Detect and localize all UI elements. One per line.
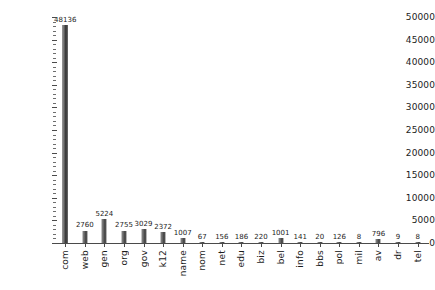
y-tick-minor: [53, 35, 56, 36]
y-tick-minor: [53, 71, 56, 72]
y-tick-minor: [53, 238, 56, 239]
y-tick-major: [52, 175, 57, 176]
bar-value-label: 186: [235, 233, 248, 241]
x-tick: [163, 243, 164, 247]
x-tick: [85, 243, 86, 247]
bar-value-label: 220: [254, 233, 267, 241]
bar[interactable]: [141, 229, 146, 243]
y-tick-minor: [53, 53, 56, 54]
x-category-label: gov: [139, 250, 149, 267]
y-tick-label: 20000: [406, 148, 435, 158]
bar-value-label: 2760: [76, 221, 94, 229]
y-tick-label: 15000: [406, 170, 435, 180]
bar-value-label: 156: [215, 233, 228, 241]
y-tick-minor: [53, 139, 56, 140]
x-category-label: edu: [236, 250, 246, 268]
y-tick-minor: [53, 103, 56, 104]
y-tick-minor: [53, 112, 56, 113]
y-tick-minor: [53, 193, 56, 194]
bar-value-label: 796: [372, 230, 385, 238]
x-category-label: pol: [334, 250, 344, 264]
y-tick-minor: [53, 94, 56, 95]
y-tick-label: 40000: [406, 57, 435, 67]
y-tick-minor: [53, 171, 56, 172]
bar-value-label: 67: [198, 233, 207, 241]
y-tick-label: 45000: [406, 35, 435, 45]
y-tick-minor: [53, 148, 56, 149]
x-category-label: org: [119, 250, 129, 265]
x-category-label: name: [178, 250, 188, 276]
y-tick-major: [52, 198, 57, 199]
x-tick: [398, 243, 399, 247]
y-tick-label: 5000: [412, 215, 435, 225]
y-tick-minor: [53, 162, 56, 163]
y-axis: [0, 0, 54, 290]
x-category-label: web: [80, 250, 90, 269]
bar-value-label: 48136: [54, 16, 76, 24]
x-category-label: tel: [413, 250, 423, 262]
y-tick-label: 0: [429, 238, 435, 248]
y-tick-minor: [53, 211, 56, 212]
x-category-label: gen: [99, 250, 109, 268]
y-tick-minor: [53, 98, 56, 99]
y-tick-major: [52, 17, 57, 18]
bar[interactable]: [161, 232, 166, 243]
y-tick-minor: [53, 26, 56, 27]
bar[interactable]: [102, 219, 107, 243]
y-tick-minor: [53, 49, 56, 50]
x-tick: [281, 243, 282, 247]
bar[interactable]: [121, 231, 126, 243]
bar-value-label: 20: [315, 233, 324, 241]
bar-value-label: 8: [357, 233, 361, 241]
x-tick: [65, 243, 66, 247]
x-category-label: net: [217, 250, 227, 265]
y-tick-minor: [53, 189, 56, 190]
x-category-label: bel: [276, 250, 286, 264]
y-tick-label: 35000: [406, 80, 435, 90]
y-tick-major: [52, 85, 57, 86]
y-tick-minor: [53, 216, 56, 217]
y-tick-minor: [53, 31, 56, 32]
y-tick-major: [52, 62, 57, 63]
bar-value-label: 141: [293, 233, 306, 241]
x-category-label: com: [60, 250, 70, 270]
y-tick-minor: [53, 44, 56, 45]
y-tick-minor: [53, 166, 56, 167]
y-tick-minor: [53, 80, 56, 81]
x-tick: [359, 243, 360, 247]
bar-value-label: 2372: [154, 223, 172, 231]
bar[interactable]: [62, 25, 68, 243]
y-tick-minor: [53, 22, 56, 23]
y-tick-minor: [53, 234, 56, 235]
y-tick-minor: [53, 67, 56, 68]
x-category-label: av: [373, 250, 383, 261]
x-tick: [241, 243, 242, 247]
y-tick-minor: [53, 116, 56, 117]
x-category-label: bbs: [315, 250, 325, 267]
y-tick-minor: [53, 89, 56, 90]
x-tick: [339, 243, 340, 247]
y-tick-minor: [53, 76, 56, 77]
x-tick: [320, 243, 321, 247]
bar-value-label: 1001: [272, 229, 290, 237]
x-category-label: mil: [354, 250, 364, 264]
y-tick-minor: [53, 58, 56, 59]
x-tick: [222, 243, 223, 247]
y-tick-label: 25000: [406, 125, 435, 135]
bar-value-label: 5224: [95, 210, 113, 218]
y-tick-major: [52, 40, 57, 41]
y-tick-label: 10000: [406, 193, 435, 203]
x-tick: [261, 243, 262, 247]
x-tick: [378, 243, 379, 247]
y-tick-minor: [53, 207, 56, 208]
plot-area: 4813627605224275530292372100767156186220…: [57, 17, 429, 243]
x-category-label: nom: [197, 250, 207, 271]
y-tick-minor: [53, 202, 56, 203]
y-tick-major: [52, 130, 57, 131]
bar-value-label: 8: [415, 233, 419, 241]
y-tick-label: 50000: [406, 12, 435, 22]
bar-chart: 4813627605224275530292372100767156186220…: [0, 0, 435, 290]
x-tick: [418, 243, 419, 247]
x-category-label: info: [295, 250, 305, 268]
bar[interactable]: [82, 231, 87, 243]
